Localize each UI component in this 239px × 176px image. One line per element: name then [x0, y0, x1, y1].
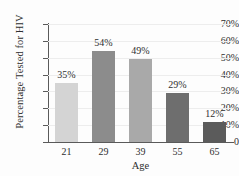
bar-value-label: 12% [193, 108, 237, 119]
bar [55, 83, 78, 142]
x-axis-title: Age [48, 160, 233, 171]
gridline [48, 24, 233, 25]
plot-area: 35%54%49%29%12% [48, 24, 233, 142]
x-axis-tick-label: 65 [193, 146, 237, 157]
bar-value-label: 29% [156, 79, 200, 90]
bar-value-label: 35% [45, 69, 89, 80]
bar [166, 93, 189, 142]
bar [203, 122, 226, 142]
y-axis-title: Percentage Tested for HIV [14, 2, 25, 142]
gridline [48, 41, 233, 42]
bar [92, 51, 115, 142]
bar-chart: Percentage Tested for HIV 010%20%30%40%5… [0, 0, 239, 176]
bar [129, 59, 152, 142]
x-axis-line [48, 142, 234, 143]
bar-value-label: 49% [119, 45, 163, 56]
